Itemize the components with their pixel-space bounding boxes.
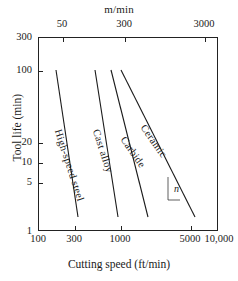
ytick-label-100: 100	[0, 65, 32, 76]
xtick-label-5000: 5000	[180, 234, 201, 245]
x-axis-title: Cutting speed (ft/min)	[0, 259, 238, 271]
ytick-label-1: 1	[0, 226, 32, 237]
y-axis-title: Tool life (min)	[12, 68, 24, 188]
top-axis-title: m/min	[0, 4, 238, 15]
top-xtick-label-50: 50	[57, 19, 68, 30]
tool-life-chart: m/min 50 300 3000 Tool life (min) 300 10…	[0, 0, 238, 281]
ytick-label-10: 10	[0, 157, 32, 168]
slope-exponent-annotation: n	[174, 183, 179, 194]
ytick-label-300: 300	[0, 32, 32, 43]
xtick-label-100: 100	[30, 234, 46, 245]
xtick-label-10000: 10,000	[205, 234, 234, 245]
top-xtick-label-300: 300	[116, 19, 132, 30]
ytick-label-20: 20	[0, 137, 32, 148]
xtick-label-300: 300	[66, 234, 82, 245]
top-xtick-label-3000: 3000	[194, 19, 215, 30]
ytick-label-5: 5	[0, 177, 32, 188]
xtick-label-1000: 1000	[110, 234, 131, 245]
